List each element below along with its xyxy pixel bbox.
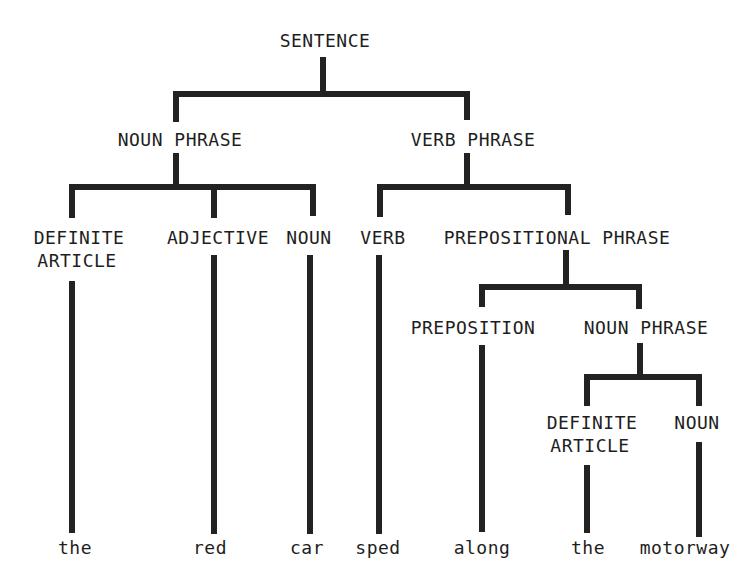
edge-leaf-sped: [376, 255, 382, 534]
node-noun-2: NOUN: [674, 413, 719, 433]
node-noun-1: NOUN: [286, 228, 331, 248]
node-definite-article-2-line2: ARTICLE: [550, 436, 629, 456]
edge-to-noun-2: [696, 374, 702, 406]
edge-to-verb: [377, 184, 383, 217]
edge-leaf-along: [479, 345, 485, 532]
word-motorway: motorway: [640, 538, 731, 558]
edge-pp-bar: [479, 284, 642, 290]
node-prepositional-phrase: PREPOSITIONAL PHRASE: [444, 228, 671, 248]
edge-sentence-stem: [320, 57, 326, 95]
node-adjective: ADJECTIVE: [167, 228, 269, 248]
word-the-1: the: [58, 538, 92, 558]
word-red: red: [193, 538, 227, 558]
edge-leaf-motorway: [696, 442, 702, 537]
edge-to-noun-phrase-2: [636, 284, 642, 309]
edge-to-adjective: [211, 184, 217, 218]
edge-to-definite-article-1: [69, 184, 75, 218]
edge-leaf-the-2: [584, 465, 590, 533]
edge-to-preposition: [479, 284, 485, 307]
edge-to-noun-phrase-1: [173, 91, 179, 122]
edge-np2-bar: [584, 374, 702, 380]
word-sped: sped: [355, 538, 400, 558]
word-the-2: the: [571, 538, 605, 558]
node-noun-phrase-2: NOUN PHRASE: [584, 318, 709, 338]
node-preposition: PREPOSITION: [411, 318, 536, 338]
edge-vp-bar: [377, 184, 571, 190]
parse-tree-diagram: SENTENCE NOUN PHRASE VERB PHRASE DEFINIT…: [0, 0, 755, 581]
edge-to-noun-1: [310, 184, 316, 216]
node-sentence: SENTENCE: [280, 31, 371, 51]
edge-np1-bar: [69, 184, 316, 190]
node-noun-phrase-1: NOUN PHRASE: [118, 130, 243, 150]
edge-sentence-bar: [173, 91, 470, 97]
edge-to-prepositional-phrase: [565, 184, 571, 215]
edge-pp-stem: [563, 250, 569, 288]
node-definite-article-2-line1: DEFINITE: [547, 413, 638, 433]
node-verb: VERB: [360, 228, 405, 248]
node-verb-phrase: VERB PHRASE: [411, 130, 536, 150]
word-car: car: [290, 538, 324, 558]
edge-leaf-the-1: [69, 281, 75, 533]
edge-leaf-car: [307, 255, 313, 534]
word-along: along: [454, 538, 511, 558]
edge-leaf-red: [211, 255, 217, 534]
node-definite-article-1-line1: DEFINITE: [34, 228, 125, 248]
node-definite-article-1-line2: ARTICLE: [37, 251, 116, 271]
edge-to-verb-phrase: [464, 91, 470, 120]
edge-to-definite-article-2: [584, 374, 590, 406]
